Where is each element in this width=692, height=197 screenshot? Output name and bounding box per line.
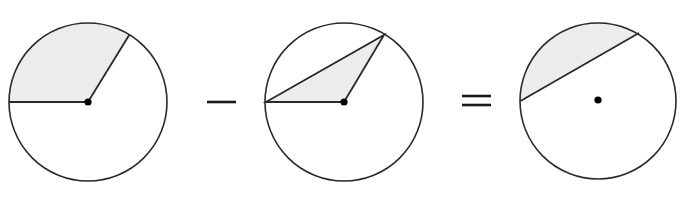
segment-figure: [520, 22, 676, 179]
triangle-shaded-region: [266, 35, 384, 102]
triangle-center-dot: [340, 98, 347, 105]
segment-center-dot: [594, 96, 601, 103]
segment-area-diagram: [0, 0, 692, 197]
triangle-figure: [265, 23, 423, 181]
segment-shaded-region: [520, 22, 639, 101]
equals-operator: [462, 96, 491, 105]
sector-figure: [9, 23, 167, 181]
sector-center-dot: [84, 98, 91, 105]
